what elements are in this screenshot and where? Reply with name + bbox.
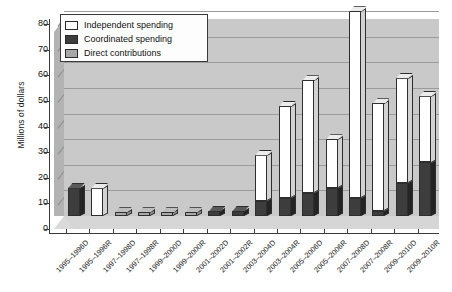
gridline-80: [64, 11, 439, 12]
bar-segment-2005–2006R-white: [326, 139, 338, 188]
bar-2005–2006D: [302, 215, 320, 216]
y-tick-label-10: 10: [22, 197, 48, 207]
y-tick-label-80: 80: [22, 18, 48, 28]
bar-1995–1996D: [68, 215, 86, 216]
bar-2003–2004D: [255, 215, 273, 216]
x-tick-mark-15: [418, 229, 419, 233]
legend-label-coordinated-spending: Coordinated spending: [84, 34, 172, 44]
plot-floor: [64, 216, 439, 229]
bar-side-2009–2010D-white: [408, 75, 413, 183]
bar-side-1995–1996D-dark: [80, 185, 85, 216]
bar-segment-2003–2004R-white: [279, 106, 291, 198]
bar-segment-1995–1996D-dark: [68, 188, 80, 216]
bar-segment-2007–2008R-dark: [372, 211, 384, 216]
y-tick-mark-70: [44, 50, 49, 51]
y-tick-mark-80: [44, 24, 49, 25]
y-tick-mark-10: [44, 203, 49, 204]
bar-segment-2007–2008D-dark: [349, 198, 361, 216]
x-tick-mark-12: [347, 229, 348, 233]
bar-side-2005–2006D-dark: [314, 190, 319, 216]
bar-segment-2005–2006R-dark: [326, 188, 338, 216]
bar-segment-2003–2004R-dark: [279, 198, 291, 216]
bar-side-1995–1996R-white: [103, 185, 108, 216]
bar-segment-1995–1996R-white: [91, 188, 103, 216]
y-tick-mark-60: [44, 75, 49, 76]
x-tick-mark-6: [207, 229, 208, 233]
bar-side-2003–2004R-white: [291, 103, 296, 198]
x-axis-line: [49, 233, 439, 234]
bar-side-2005–2006R-dark: [338, 185, 343, 216]
x-tick-mark-9: [277, 229, 278, 233]
chart-figure: Millions of dollars 01020304050607080 In…: [0, 0, 452, 292]
legend-item-coordinated-spending: Coordinated spending: [65, 32, 203, 46]
bar-side-2005–2006R-white: [338, 137, 343, 188]
y-tick-mark-20: [44, 178, 49, 179]
x-tick-mark-4: [160, 229, 161, 233]
y-tick-mark-40: [44, 127, 49, 128]
chart-legend: Independent spending Coordinated spendin…: [60, 14, 208, 62]
x-tick-mark-1: [89, 229, 90, 233]
bar-segment-2005–2006D-white: [302, 80, 314, 193]
x-tick-mark-0: [66, 229, 67, 233]
y-tick-label-20: 20: [22, 172, 48, 182]
bar-side-2005–2006D-white: [314, 78, 319, 193]
y-tick-label-70: 70: [22, 44, 48, 54]
bar-1997–1998R: [138, 215, 156, 216]
bar-side-2007–2008D-white: [361, 8, 366, 198]
y-tick-label-30: 30: [22, 146, 48, 156]
bar-segment-2003–2004D-white: [255, 155, 267, 201]
x-tick-mark-7: [230, 229, 231, 233]
bar-2001–2002D: [208, 215, 226, 216]
bar-segment-2007–2008R-white: [372, 103, 384, 211]
bar-segment-2009–2010D-dark: [396, 183, 408, 216]
bar-segment-2005–2006D-dark: [302, 193, 314, 216]
bar-2009–2010R: [419, 215, 437, 216]
bar-side-2003–2004D-white: [267, 152, 272, 201]
bar-side-2009–2010R-white: [431, 93, 436, 162]
x-tick-mark-14: [394, 229, 395, 233]
y-tick-label-0: 0: [22, 223, 48, 233]
bar-2009–2010D: [396, 215, 414, 216]
bar-segment-2009–2010R-dark: [419, 162, 431, 216]
bar-1995–1996R: [91, 215, 109, 216]
legend-swatch-direct-contributions-icon: [65, 49, 78, 58]
plot-area: Independent spending Coordinated spendin…: [64, 19, 439, 229]
bar-1999–2000R: [185, 215, 203, 216]
bar-2005–2006R: [326, 215, 344, 216]
bar-2003–2004R: [279, 215, 297, 216]
y-tick-label-40: 40: [22, 121, 48, 131]
legend-label-direct-contributions: Direct contributions: [84, 48, 161, 58]
x-tick-mark-13: [371, 229, 372, 233]
legend-item-independent-spending: Independent spending: [65, 18, 203, 32]
bar-segment-2009–2010R-white: [419, 96, 431, 163]
x-tick-mark-2: [113, 229, 114, 233]
y-tick-mark-50: [44, 101, 49, 102]
y-tick-mark-0: [44, 229, 49, 230]
gridline-60: [64, 62, 439, 63]
bar-side-2007–2008D-dark: [361, 195, 366, 216]
x-tick-mark-5: [183, 229, 184, 233]
bar-side-2009–2010R-dark: [431, 160, 436, 216]
y-tick-label-60: 60: [22, 69, 48, 79]
bar-segment-2009–2010D-white: [396, 78, 408, 183]
bar-segment-2007–2008D-white: [349, 11, 361, 198]
x-tick-mark-11: [324, 229, 325, 233]
bar-2001–2002R: [232, 215, 250, 216]
bar-side-2007–2008R-white: [384, 101, 389, 211]
legend-swatch-coordinated-spending-icon: [65, 35, 78, 44]
y-tick-label-50: 50: [22, 95, 48, 105]
bar-2007–2008R: [372, 215, 390, 216]
bar-side-2003–2004R-dark: [291, 195, 296, 216]
x-tick-mark-8: [254, 229, 255, 233]
y-axis-line: [49, 19, 50, 234]
bar-side-2009–2010D-dark: [408, 180, 413, 216]
x-tick-mark-3: [136, 229, 137, 233]
bar-1999–2000D: [161, 215, 179, 216]
gridline-50: [64, 88, 439, 89]
legend-swatch-independent-spending-icon: [65, 21, 78, 30]
bar-2007–2008D: [349, 215, 367, 216]
x-tick-mark-10: [300, 229, 301, 233]
bar-side-2003–2004D-dark: [267, 198, 272, 216]
legend-item-direct-contributions: Direct contributions: [65, 46, 203, 60]
bar-segment-2003–2004D-dark: [255, 201, 267, 216]
